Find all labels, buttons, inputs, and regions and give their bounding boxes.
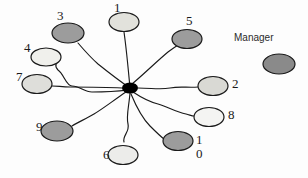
node-7[interactable] [22,75,52,94]
edge-hub-to-7 [52,86,122,88]
node-5[interactable] [172,30,202,49]
node-3[interactable] [52,23,84,43]
edge-hub-to-9 [72,92,126,126]
node-label-2: 2 [232,77,239,91]
node-label-9: 9 [36,120,43,134]
hub-layer [122,83,138,94]
edge-hub-to-6 [124,93,130,142]
node-label-3: 3 [57,9,64,23]
network-graph [0,0,308,178]
node-1[interactable] [109,13,139,32]
node-10[interactable] [163,132,193,151]
edge-hub-to-5 [132,45,178,84]
edge-hub-to-3 [78,43,130,88]
edge-hub-to-8 [133,92,194,116]
node-label-10: 1 0 [196,133,203,160]
center-hub-node[interactable] [122,83,138,94]
diagram-canvas: 1234567891 0 Manager [0,0,308,178]
node-6[interactable] [108,146,138,165]
edge-hub-to-1 [124,32,130,88]
legend-title: Manager [234,32,273,43]
node-4[interactable] [31,48,61,66]
node-9[interactable] [41,121,73,141]
node-2[interactable] [198,77,228,96]
node-label-7: 7 [16,70,23,84]
legend-swatch-layer [263,54,295,74]
node-label-4: 4 [24,41,31,55]
node-label-5: 5 [186,14,193,28]
node-label-8: 8 [228,108,235,122]
edge-hub-to-2 [138,87,198,89]
node-label-6: 6 [103,148,110,162]
node-label-1: 1 [114,1,121,15]
legend-manager-swatch [263,54,295,74]
node-8[interactable] [194,108,224,127]
